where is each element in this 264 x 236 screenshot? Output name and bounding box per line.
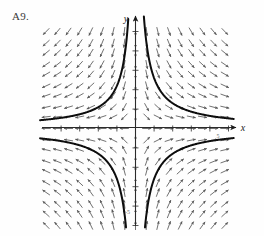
field-arrow xyxy=(187,159,195,163)
field-arrow xyxy=(109,115,117,119)
field-arrow xyxy=(176,159,183,164)
field-arrow xyxy=(112,27,114,36)
field-arrow xyxy=(221,181,229,186)
field-arrow xyxy=(210,50,217,56)
field-arrow xyxy=(188,180,195,186)
field-arrow xyxy=(165,139,174,142)
field-arrow xyxy=(157,221,159,230)
field-arrow xyxy=(42,72,50,77)
x-tick-label-5: 5 xyxy=(217,133,220,139)
field-arrow xyxy=(43,222,49,229)
field-arrow xyxy=(123,157,126,165)
field-arrow xyxy=(100,189,104,197)
field-arrow xyxy=(77,189,83,196)
field-arrow xyxy=(157,210,159,219)
field-arrow xyxy=(209,149,218,151)
field-arrow xyxy=(112,200,115,209)
field-arrow xyxy=(54,180,61,185)
field-arrow xyxy=(100,70,105,78)
field-arrow xyxy=(77,201,82,208)
field-arrow xyxy=(76,83,83,88)
field-arrow xyxy=(188,61,194,68)
field-arrow xyxy=(199,71,206,77)
field-arrow xyxy=(100,210,103,218)
field-arrow xyxy=(77,39,82,46)
field-arrow xyxy=(155,158,160,165)
field-arrow xyxy=(167,200,171,208)
field-arrow xyxy=(156,70,160,78)
field-arrow xyxy=(64,149,73,152)
field-arrow xyxy=(110,104,117,110)
field-arrow xyxy=(221,84,229,88)
field-arrow xyxy=(178,210,182,218)
field-arrow xyxy=(189,28,194,36)
field-arrow xyxy=(209,160,217,163)
field-arrow xyxy=(65,83,73,88)
field-arrow xyxy=(221,160,229,163)
field-arrow xyxy=(167,210,170,218)
field-arrow xyxy=(99,168,105,175)
field-arrow xyxy=(88,61,93,68)
field-arrow xyxy=(176,93,183,98)
field-arrow xyxy=(54,190,61,196)
field-arrow xyxy=(156,188,159,196)
field-arrow xyxy=(121,114,127,120)
field-arrow xyxy=(221,211,228,217)
field-arrow xyxy=(43,28,49,35)
field-arrow xyxy=(177,179,183,186)
field-arrow xyxy=(112,60,115,68)
field-arrow xyxy=(210,169,218,173)
field-arrow xyxy=(66,210,72,217)
field-arrow xyxy=(99,82,105,89)
field-arrow xyxy=(65,61,72,67)
field-arrow xyxy=(187,116,196,118)
field-arrow xyxy=(199,50,205,57)
field-arrow xyxy=(210,62,217,68)
field-arrow xyxy=(101,27,104,35)
field-arrow xyxy=(145,157,148,165)
field-arrow xyxy=(53,94,61,97)
field-arrow xyxy=(77,222,82,230)
field-arrow xyxy=(221,94,229,97)
field-arrow xyxy=(189,201,194,208)
field-arrow xyxy=(167,61,171,69)
field-arrow xyxy=(209,106,218,108)
field-arrow xyxy=(156,60,159,68)
field-arrow xyxy=(86,116,95,118)
field-arrow xyxy=(112,39,114,48)
field-arrow xyxy=(54,28,60,35)
x-axis-label: x xyxy=(240,122,246,133)
field-arrow xyxy=(178,27,182,35)
field-arrow xyxy=(54,222,60,229)
field-arrow xyxy=(189,49,194,56)
field-arrow xyxy=(188,71,195,77)
field-arrow xyxy=(124,27,125,36)
field-arrow xyxy=(211,211,217,218)
field-arrow xyxy=(54,40,60,47)
field-arrow xyxy=(64,160,72,164)
field-arrow xyxy=(42,169,50,173)
field-arrow xyxy=(100,39,103,47)
field-arrow xyxy=(221,201,228,207)
field-arrow xyxy=(210,190,217,196)
field-arrow xyxy=(211,28,217,35)
field-arrow xyxy=(77,210,82,217)
field-arrow xyxy=(199,189,206,195)
field-arrow xyxy=(89,27,93,35)
field-arrow xyxy=(53,84,61,88)
field-arrow xyxy=(155,147,162,153)
field-arrow xyxy=(111,158,116,165)
field-arrow xyxy=(187,148,195,151)
field-arrow xyxy=(176,116,185,118)
field-arrow xyxy=(209,94,217,97)
field-arrow xyxy=(210,72,217,77)
field-arrow xyxy=(109,138,117,142)
field-arrow xyxy=(76,180,83,186)
field-arrow xyxy=(146,188,148,197)
field-arrow xyxy=(167,221,170,229)
field-arrow xyxy=(123,178,125,187)
field-arrow xyxy=(65,169,73,174)
field-arrow xyxy=(88,179,94,186)
field-arrow xyxy=(177,83,184,89)
field-arrow xyxy=(198,149,207,152)
